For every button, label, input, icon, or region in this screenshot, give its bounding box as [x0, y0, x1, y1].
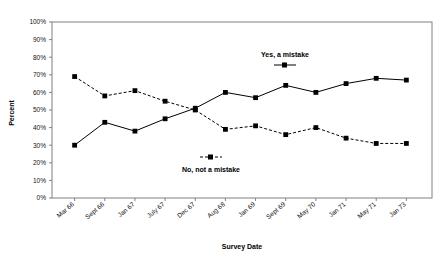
line-chart: 0%10%20%30%40%50%60%70%80%90%100% Mar 66… — [0, 0, 446, 265]
legend-label-no: No, not a mistake — [182, 166, 240, 174]
y-tick-label: 0% — [37, 194, 47, 201]
legend-label-yes: Yes, a mistake — [261, 51, 309, 59]
y-tick-label: 20% — [33, 159, 46, 166]
data-point-marker — [313, 90, 318, 95]
data-point-marker — [344, 81, 349, 86]
y-axis-title: Percent — [8, 99, 15, 125]
data-point-marker — [72, 74, 77, 79]
plot-area-border — [52, 22, 432, 198]
data-point-marker — [253, 95, 258, 100]
y-tick-label: 90% — [33, 36, 46, 43]
y-tick-label: 30% — [33, 142, 46, 149]
data-point-marker — [223, 90, 228, 95]
y-tick-label: 40% — [33, 124, 46, 131]
y-tick-label: 60% — [33, 89, 46, 96]
data-point-marker — [374, 76, 379, 81]
data-point-marker — [72, 143, 77, 148]
data-point-marker — [133, 88, 138, 93]
chart-figure: 0%10%20%30%40%50%60%70%80%90%100% Mar 66… — [0, 0, 446, 265]
data-point-marker — [102, 120, 107, 125]
y-tick-label: 10% — [33, 177, 46, 184]
y-tick-label: 100% — [29, 18, 46, 25]
data-point-marker — [283, 83, 288, 88]
data-point-marker — [253, 123, 258, 128]
data-point-marker — [163, 116, 168, 121]
data-point-marker — [193, 108, 198, 113]
y-tick-label: 50% — [33, 106, 46, 113]
data-point-marker — [404, 141, 409, 146]
y-tick-label: 80% — [33, 54, 46, 61]
data-point-marker — [313, 125, 318, 130]
data-point-marker — [163, 99, 168, 104]
data-point-marker — [133, 129, 138, 134]
data-point-marker — [223, 127, 228, 132]
y-tick-label: 70% — [33, 71, 46, 78]
data-point-marker — [102, 94, 107, 99]
data-point-marker — [404, 78, 409, 83]
legend-marker-yes — [282, 63, 287, 68]
legend-marker-no — [208, 155, 213, 160]
x-axis-title: Survey Date — [222, 243, 263, 251]
data-point-marker — [344, 136, 349, 141]
data-point-marker — [283, 132, 288, 137]
data-point-marker — [374, 141, 379, 146]
